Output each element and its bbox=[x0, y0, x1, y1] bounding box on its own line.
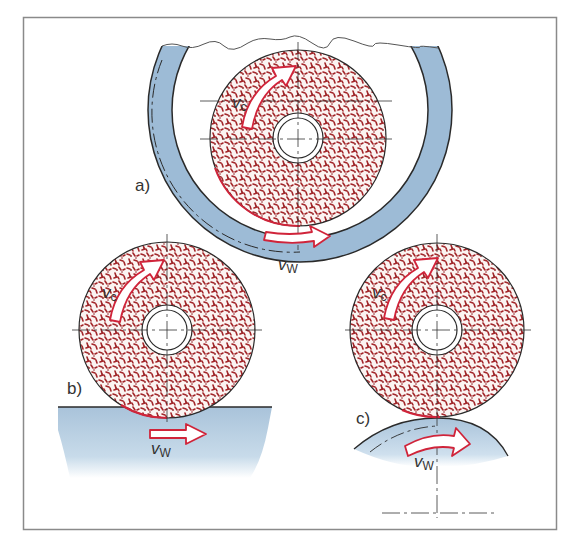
panel-label-c: c) bbox=[356, 410, 370, 427]
workpiece-speed-label-a: vW bbox=[278, 256, 298, 275]
panel-label-b: b) bbox=[67, 380, 82, 397]
section-break-line bbox=[162, 36, 438, 50]
workpiece-speed-label-c: vW bbox=[414, 453, 434, 472]
grinding-diagram: a) b) c) vc vW vc vW vc vW bbox=[0, 0, 561, 536]
panel-label-a: a) bbox=[135, 177, 150, 194]
panel-c bbox=[345, 234, 531, 518]
panel-a bbox=[148, 0, 452, 262]
cutting-speed-label-b: vc bbox=[102, 284, 117, 303]
cutting-speed-label-c: vc bbox=[372, 284, 387, 303]
cutting-speed-label-a: vc bbox=[232, 94, 247, 113]
workpiece-speed-label-b: vW bbox=[151, 440, 171, 459]
